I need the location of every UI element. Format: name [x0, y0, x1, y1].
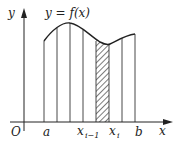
riemann-diagram: y y = f(x) O a x i−1 x i b x: [0, 0, 179, 144]
origin-label: O: [11, 125, 21, 139]
tick-label-a: a: [43, 125, 50, 139]
function-label: y = f(x): [44, 6, 90, 20]
tick-label-x-i: x: [109, 124, 116, 138]
y-axis-label: y: [7, 6, 15, 20]
shaded-strip: [96, 20, 109, 122]
tick-label-x-prev-sub: i−1: [85, 131, 99, 140]
tick-label-b: b: [135, 125, 143, 139]
tick-label-x-i-sub: i: [117, 131, 120, 140]
function-curve: [44, 23, 135, 44]
tick-label-x-prev: x: [77, 124, 84, 138]
x-axis-label: x: [159, 124, 166, 138]
y-axis-arrow-icon: [21, 8, 27, 18]
